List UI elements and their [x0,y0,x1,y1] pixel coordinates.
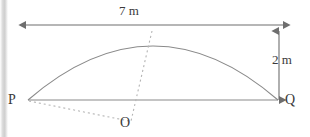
radius-to-p-dotted-line [29,101,129,121]
height-label: 2 m [272,53,292,66]
point-label-o: O [120,116,130,130]
apex-to-center-dotted-line [131,31,152,121]
span-label: 7 m [119,4,139,17]
arc-curve [28,46,278,100]
point-label-q: Q [285,93,295,107]
circular-segment-figure [0,0,310,137]
point-label-p: P [8,93,16,107]
diagram-canvas: 7 m 2 m P Q O [0,0,310,137]
